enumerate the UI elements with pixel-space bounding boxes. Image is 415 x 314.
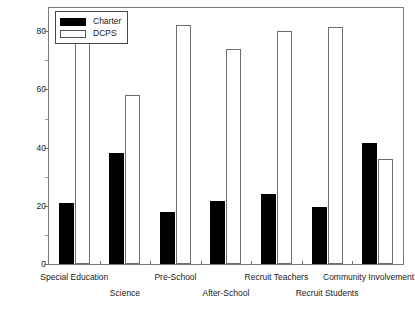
bar-charter [312, 207, 327, 264]
bar-charter [362, 143, 377, 264]
y-tick-label-0: 0 [0, 260, 46, 269]
y-minor-tick-30 [45, 177, 48, 178]
bar-group [150, 8, 201, 264]
bar-charter [261, 194, 276, 264]
bar-group [49, 8, 100, 264]
x-axis-label: Recruit Students [296, 289, 359, 298]
bar-dcps [378, 159, 393, 264]
y-tick-label-60: 60 [0, 85, 46, 94]
bar-dcps [328, 27, 343, 264]
y-tick-mark-40 [44, 148, 48, 149]
bars-layer [49, 8, 403, 264]
bar-charter [59, 203, 74, 264]
y-tick-label-80: 80 [0, 27, 46, 36]
bar-group [201, 8, 252, 264]
bar-dcps [125, 95, 140, 264]
bar-dcps [277, 31, 292, 264]
bar-charter [210, 201, 225, 264]
x-tick-mark [403, 261, 404, 265]
y-minor-tick-70 [45, 60, 48, 61]
bar-chart: Percent of Principals 020406080 Special … [0, 0, 415, 314]
y-minor-tick-50 [45, 119, 48, 120]
legend-label-charter: Charter [93, 17, 121, 26]
x-axis-label: Recruit Teachers [245, 273, 309, 282]
x-axis-label: After-School [203, 289, 250, 298]
legend-label-dcps: DCPS [93, 29, 117, 38]
chart-legend: Charter DCPS [55, 11, 128, 44]
bar-group [352, 8, 403, 264]
bar-dcps [176, 25, 191, 264]
y-minor-tick-10 [45, 235, 48, 236]
bar-group [302, 8, 353, 264]
x-axis-label: Community Involvement [323, 273, 414, 282]
x-axis-label: Pre-School [154, 273, 196, 282]
bar-charter [109, 153, 124, 264]
legend-item-charter: Charter [60, 16, 121, 27]
legend-item-dcps: DCPS [60, 28, 121, 39]
bar-charter [160, 212, 175, 264]
x-axis-label: Science [110, 289, 140, 298]
y-tick-label-20: 20 [0, 202, 46, 211]
bar-group [251, 8, 302, 264]
bar-dcps [226, 49, 241, 264]
x-axis-label: Special Education [40, 273, 108, 282]
legend-swatch-dcps [60, 30, 86, 38]
bar-dcps [75, 28, 90, 264]
legend-swatch-charter [60, 18, 86, 26]
y-tick-mark-20 [44, 206, 48, 207]
y-tick-mark-0 [44, 264, 48, 265]
y-tick-mark-60 [44, 89, 48, 90]
bar-group [100, 8, 151, 264]
y-tick-mark-80 [44, 31, 48, 32]
y-tick-label-40: 40 [0, 144, 46, 153]
